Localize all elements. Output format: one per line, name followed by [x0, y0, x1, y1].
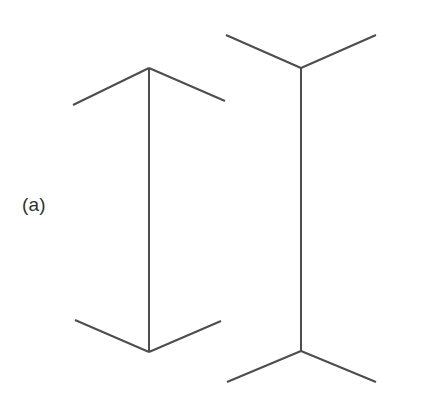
right-figure-top-right-fin	[301, 35, 376, 68]
figure-canvas: (a)	[0, 0, 422, 411]
left-figure-bottom-right-fin	[149, 321, 221, 352]
right-figure-bottom-left-fin	[227, 351, 301, 382]
muller-lyer-diagram	[0, 0, 422, 411]
right-figure-arrows-out	[226, 35, 376, 382]
right-figure-top-left-fin	[226, 35, 301, 68]
left-figure-bottom-left-fin	[75, 320, 149, 352]
left-figure-arrows-in	[73, 68, 225, 352]
right-figure-bottom-right-fin	[301, 351, 376, 382]
left-figure-top-right-fin	[149, 68, 225, 101]
panel-label: (a)	[22, 195, 46, 214]
left-figure-top-left-fin	[73, 68, 149, 105]
